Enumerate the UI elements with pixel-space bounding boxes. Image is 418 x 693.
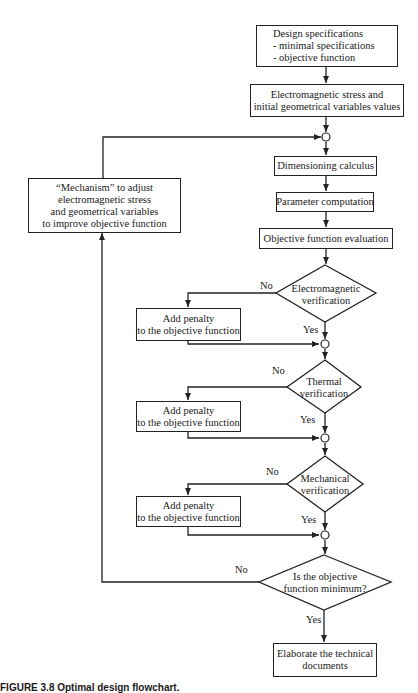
node-text: verification bbox=[301, 485, 349, 497]
parameter-computation-box: Parameter computation bbox=[276, 192, 374, 212]
objective-evaluation-box: Objective function evaluation bbox=[259, 228, 393, 249]
em-no-label: No bbox=[260, 280, 273, 292]
node-text: verification bbox=[302, 295, 350, 307]
node-text: Elaborate the technical bbox=[277, 648, 373, 660]
arrow-penalty3-to-junction bbox=[188, 526, 319, 535]
node-text: Add penalty bbox=[163, 500, 215, 512]
node-text: electromagnetic stress bbox=[58, 194, 151, 206]
junction-node bbox=[321, 434, 329, 442]
node-text: Parameter computation bbox=[276, 196, 374, 208]
thermal-no-label: No bbox=[272, 365, 285, 377]
arrow-em-no bbox=[188, 293, 276, 307]
arrow-mechanical-no bbox=[188, 484, 287, 495]
em-verification-label: Electromagnetic verification bbox=[276, 283, 376, 307]
node-text: to the objective function bbox=[137, 325, 239, 337]
penalty-mechanical-box: Add penalty to the objective function bbox=[136, 496, 241, 527]
minimum-no-label: No bbox=[235, 564, 248, 576]
node-text: documents bbox=[302, 660, 348, 672]
node-text: to the objective function bbox=[137, 417, 239, 429]
arrow-penalty2-to-junction bbox=[188, 431, 319, 438]
mechanical-no-label: No bbox=[266, 466, 279, 478]
node-text: function minimum? bbox=[283, 583, 366, 595]
mechanism-box: “Mechanism” to adjust electromagnetic st… bbox=[28, 178, 181, 233]
node-text: verification bbox=[300, 388, 348, 400]
node-text: Objective function evaluation bbox=[264, 233, 389, 245]
node-text: Dimensioning calculus bbox=[277, 160, 374, 172]
node-text: Add penalty bbox=[163, 313, 215, 325]
junction-node bbox=[322, 133, 330, 141]
node-text: Is the objective bbox=[293, 571, 357, 583]
thermal-verification-label: Thermal verification bbox=[287, 376, 361, 400]
design-specifications-box: Design specifications - minimal specific… bbox=[256, 25, 398, 67]
node-text: Mechanical bbox=[301, 473, 350, 485]
junction-node bbox=[321, 531, 329, 539]
figure-caption: FIGURE 3.8 Optimal design flowchart. bbox=[0, 682, 179, 693]
mechanical-yes-label: Yes bbox=[301, 514, 316, 526]
node-text: “Mechanism” to adjust bbox=[56, 182, 153, 194]
arrow-thermal-no bbox=[188, 387, 287, 400]
penalty-em-box: Add penalty to the objective function bbox=[136, 308, 241, 341]
minimum-check-label: Is the objective function minimum? bbox=[259, 571, 391, 595]
node-text: - objective function bbox=[273, 52, 355, 64]
node-text: - minimal specifications bbox=[273, 40, 374, 52]
node-text: initial geometrical variables values bbox=[254, 101, 401, 113]
node-text: to improve objective function bbox=[42, 218, 167, 230]
thermal-yes-label: Yes bbox=[300, 414, 315, 426]
mechanical-verification-label: Mechanical verification bbox=[287, 473, 363, 497]
node-text: to the objective function bbox=[137, 512, 239, 524]
node-text: and geometrical variables bbox=[51, 206, 159, 218]
dimensioning-calculus-box: Dimensioning calculus bbox=[274, 156, 377, 176]
node-text: Add penalty bbox=[163, 405, 215, 417]
node-text: Electromagnetic bbox=[292, 283, 361, 295]
em-yes-label: Yes bbox=[303, 324, 318, 336]
penalty-thermal-box: Add penalty to the objective function bbox=[136, 401, 241, 432]
minimum-yes-label: Yes bbox=[306, 614, 321, 626]
initial-values-box: Electromagnetic stress and initial geome… bbox=[250, 84, 404, 117]
junction-node bbox=[321, 340, 329, 348]
node-text: Design specifications bbox=[273, 28, 363, 40]
node-text: Thermal bbox=[306, 376, 342, 388]
node-text: Electromagnetic stress and bbox=[271, 89, 384, 101]
elaborate-documents-box: Elaborate the technical documents bbox=[273, 643, 377, 677]
